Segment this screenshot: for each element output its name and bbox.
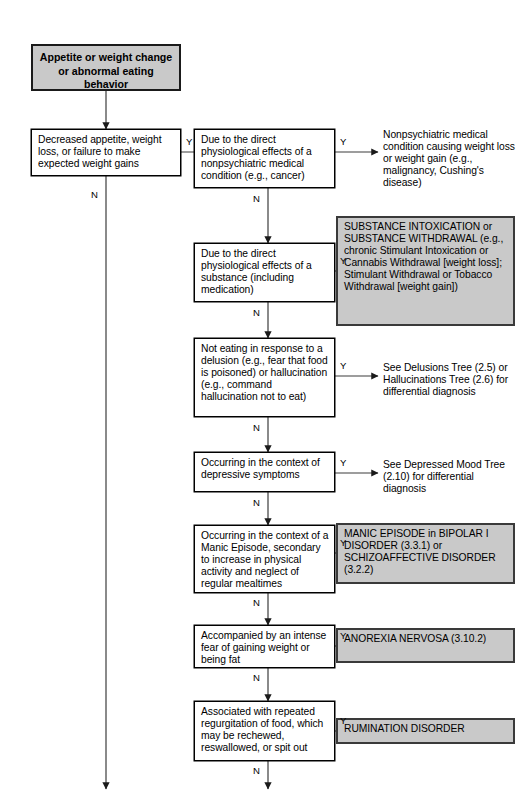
edge-label-yes-5: Y xyxy=(340,458,346,468)
outcome-delusions-hallucinations-tree: See Delusions Tree (2.5) or Hallucinatio… xyxy=(383,362,517,398)
criterion-box-depressive-symptoms[interactable]: Occurring in the context of depressive s… xyxy=(194,452,335,492)
edge-label-no-2: N xyxy=(253,194,260,204)
edge-label-yes-7: Y xyxy=(340,631,346,641)
edge-label-no-5: N xyxy=(253,498,260,508)
outcome-depressed-mood-tree: See Depressed Mood Tree (2.10) for diffe… xyxy=(383,459,513,495)
criterion-box-decreased-appetite[interactable]: Decreased appetite, weight loss, or fail… xyxy=(31,129,181,176)
outcome-substance-intoxication-withdrawal: SUBSTANCE INTOXICATION or SUBSTANCE WITH… xyxy=(336,216,515,326)
edge-label-no-6: N xyxy=(253,598,260,608)
outcome-manic-episode-bipolar: MANIC EPISODE in BIPOLAR I DISORDER (3.3… xyxy=(336,523,515,584)
edge-label-no-7: N xyxy=(253,673,260,683)
criterion-box-fear-of-gaining-weight[interactable]: Accompanied by an intense fear of gainin… xyxy=(194,625,335,668)
criterion-box-substance[interactable]: Due to the direct physiological effects … xyxy=(194,243,335,302)
edge-label-yes-8: Y xyxy=(340,716,346,726)
edge-label-no-1: N xyxy=(91,190,98,200)
edge-label-no-3: N xyxy=(253,308,260,318)
edge-label-yes-2: Y xyxy=(340,137,346,147)
flowchart-canvas: Appetite or weight change or abnormal ea… xyxy=(0,0,522,810)
criterion-box-manic-episode[interactable]: Occurring in the context of a Manic Epis… xyxy=(194,525,335,593)
criterion-box-regurgitation[interactable]: Associated with repeated regurgitation o… xyxy=(194,701,335,761)
edge-label-no-4: N xyxy=(253,423,260,433)
edge-label-yes-4: Y xyxy=(340,361,346,371)
edge-label-yes-6: Y xyxy=(340,538,346,548)
edge-label-yes-1: Y xyxy=(186,137,192,147)
criterion-box-delusion-hallucination[interactable]: Not eating in response to a delusion (e.… xyxy=(194,338,335,417)
edge-label-yes-3: Y xyxy=(340,256,346,266)
outcome-anorexia-nervosa: ANOREXIA NERVOSA (3.10.2) xyxy=(336,628,515,663)
edge-label-no-8: N xyxy=(253,766,260,776)
criterion-box-medical-condition[interactable]: Due to the direct physiological effects … xyxy=(194,129,335,188)
outcome-rumination-disorder: RUMINATION DISORDER xyxy=(336,718,515,744)
start-box: Appetite or weight change or abnormal ea… xyxy=(31,44,181,91)
outcome-nonpsychiatric-medical-condition: Nonpsychiatric medical condition causing… xyxy=(383,129,515,189)
